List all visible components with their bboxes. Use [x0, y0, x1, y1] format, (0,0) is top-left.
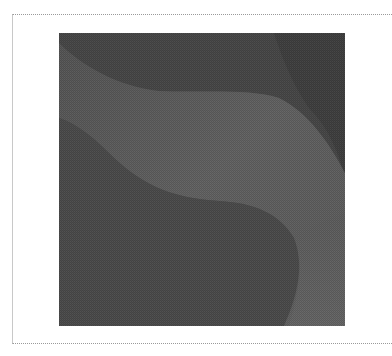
image-description: Abstract gray wave wallpaper with flowin…: [0, 0, 1, 1]
abstract-wave-image: [59, 33, 345, 326]
grain-overlay: [59, 33, 345, 326]
